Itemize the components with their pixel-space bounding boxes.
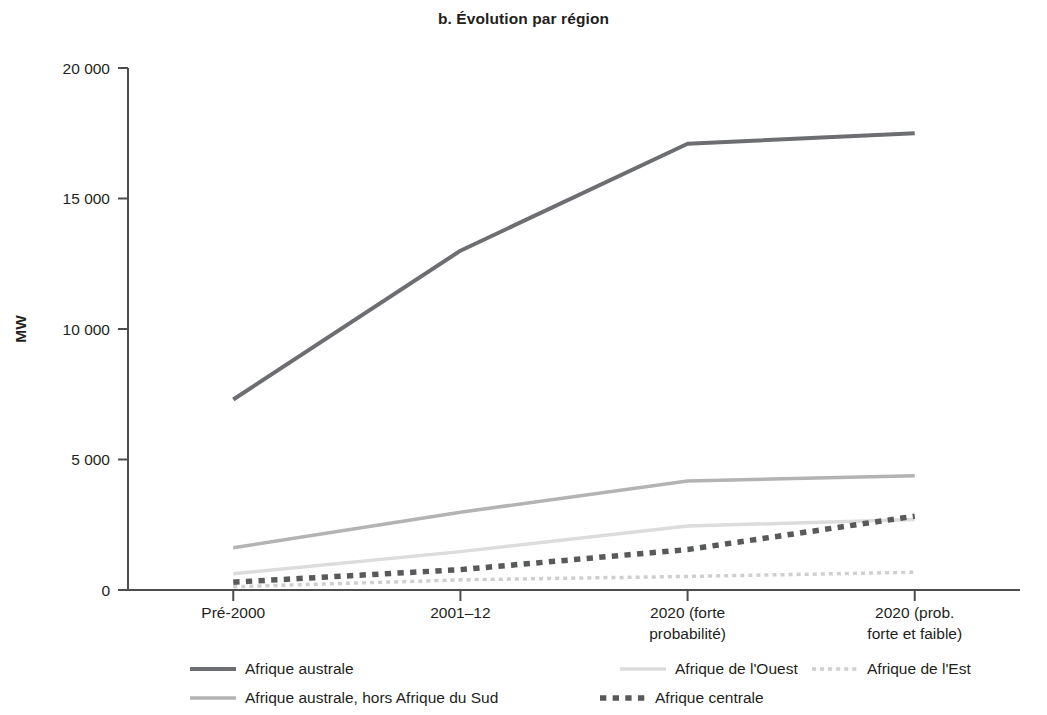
x-axis-category-label: forte et faible): [867, 625, 962, 642]
legend-label: Afrique de l'Est: [867, 661, 971, 677]
chart-container: b. Évolution par région 05 00010 00015 0…: [0, 0, 1047, 715]
legend-item[interactable]: Afrique australe: [190, 655, 354, 683]
x-axis-category-label: 2001–12: [430, 604, 490, 621]
legend-row: Afrique australeAfrique de l'OuestAfriqu…: [0, 655, 1047, 683]
x-axis-category-label: probabilité): [649, 625, 726, 642]
legend-item[interactable]: Afrique de l'Ouest: [620, 655, 798, 683]
chart-legend: Afrique australeAfrique de l'OuestAfriqu…: [0, 655, 1047, 715]
legend-label: Afrique australe, hors Afrique du Sud: [245, 690, 498, 706]
chart-series-layer: [233, 133, 914, 587]
series-line: [233, 476, 914, 548]
y-axis-tick-label: 20 000: [63, 60, 111, 77]
y-axis-title: MW: [12, 315, 29, 343]
legend-line-swatch-icon: [190, 691, 236, 705]
y-axis-tick-label: 15 000: [63, 190, 111, 207]
legend-row: Afrique australe, hors Afrique du SudAfr…: [0, 684, 1047, 712]
y-axis-tick-label: 5 000: [71, 451, 110, 468]
legend-line-swatch-icon: [620, 662, 666, 676]
line-chart-plot: 05 00010 00015 00020 000MWPré-20002001–1…: [0, 0, 1047, 660]
chart-axis-labels: 05 00010 00015 00020 000MWPré-20002001–1…: [12, 60, 962, 643]
legend-item[interactable]: Afrique de l'Est: [812, 655, 971, 683]
x-axis-category-label: Pré-2000: [201, 604, 265, 621]
y-axis-tick-label: 0: [101, 582, 110, 599]
legend-line-swatch-icon: [190, 662, 236, 676]
x-axis-category-label: 2020 (forte: [650, 604, 725, 621]
series-line: [233, 520, 914, 574]
series-line: [233, 516, 914, 582]
legend-item[interactable]: Afrique australe, hors Afrique du Sud: [190, 684, 498, 712]
legend-label: Afrique australe: [245, 661, 354, 677]
series-line: [233, 133, 914, 399]
legend-item[interactable]: Afrique centrale: [600, 684, 764, 712]
legend-label: Afrique centrale: [655, 690, 764, 706]
x-axis-category-label: 2020 (prob.: [875, 604, 954, 621]
y-axis-tick-label: 10 000: [63, 321, 111, 338]
legend-label: Afrique de l'Ouest: [675, 661, 798, 677]
legend-line-swatch-icon: [812, 662, 858, 676]
legend-line-swatch-icon: [600, 691, 646, 705]
